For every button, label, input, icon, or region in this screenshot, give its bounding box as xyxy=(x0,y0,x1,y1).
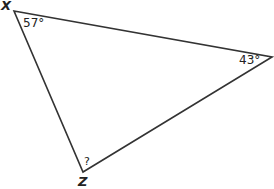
vertex-label-x: X xyxy=(0,0,12,13)
angle-label-x: 57° xyxy=(23,16,44,30)
angle-label-z: ? xyxy=(84,155,90,168)
angle-label-y: 43° xyxy=(239,53,260,67)
vertex-label-z: Z xyxy=(77,174,88,189)
triangle-svg: X 57° 43° ? Z xyxy=(0,0,274,189)
triangle-diagram: X 57° 43° ? Z xyxy=(0,0,274,189)
triangle-xyz xyxy=(14,11,272,172)
